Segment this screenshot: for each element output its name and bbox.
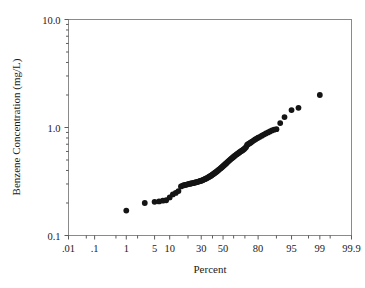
x-tick-label: 30 — [196, 243, 207, 254]
data-point — [123, 208, 129, 214]
data-point — [274, 126, 280, 132]
data-point — [277, 120, 283, 126]
chart-canvas: .01.11510305080959999.9 0.11.010.0 Perce… — [0, 0, 365, 288]
x-tick-label: 5 — [152, 243, 157, 254]
data-point — [142, 200, 148, 206]
data-point — [317, 92, 323, 98]
y-tick-label: 0.1 — [47, 231, 60, 242]
x-tick-label: 99.9 — [342, 243, 360, 254]
data-point — [289, 107, 295, 113]
x-tick-label: .1 — [91, 243, 99, 254]
y-tick-label: 1.0 — [47, 123, 60, 134]
x-axis-title: Percent — [194, 263, 227, 275]
x-tick-label: .01 — [62, 243, 75, 254]
x-tick-label: 95 — [286, 243, 297, 254]
x-tick-label: 1 — [124, 243, 129, 254]
y-tick-label: 10.0 — [42, 15, 60, 26]
plot-frame — [69, 20, 352, 236]
probability-plot-figure: .01.11510305080959999.9 0.11.010.0 Perce… — [0, 0, 365, 288]
x-tick-label: 10 — [164, 243, 175, 254]
y-axis-title: Benzene Concentration (mg/L) — [10, 58, 23, 195]
x-tick-label: 99 — [315, 243, 326, 254]
x-tick-label: 50 — [218, 243, 229, 254]
data-point — [282, 114, 288, 120]
data-point — [296, 105, 302, 111]
x-tick-label: 80 — [253, 243, 264, 254]
